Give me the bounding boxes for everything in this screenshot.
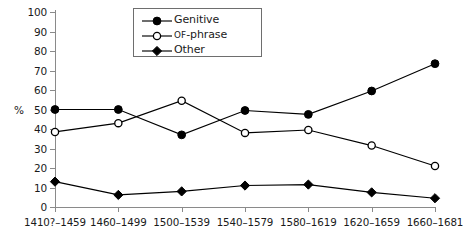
data-point [114,190,123,199]
data-point [240,181,249,190]
data-point [51,128,58,135]
legend-label-smallcaps: OF [174,30,186,40]
data-point [178,131,186,139]
legend-item: Other [140,42,261,57]
data-point [304,180,313,189]
data-point [304,110,312,118]
data-point [431,60,439,68]
series-genitive [51,60,439,139]
data-point [178,97,185,104]
chart-legend: GenitiveOF-phraseOther [133,8,262,57]
data-point [51,106,59,114]
data-point [305,126,312,133]
legend-item: OF-phrase [140,27,261,42]
legend-item: Genitive [140,12,261,27]
data-point [177,187,186,196]
data-point [431,162,438,169]
legend-marker-filled-diamond-icon [140,43,174,57]
series-other [50,177,439,203]
legend-marker-open-circle-icon [140,28,174,42]
legend-label: Genitive [174,13,219,26]
data-point [241,129,248,136]
legend-label: Other [174,43,205,56]
data-point [368,142,375,149]
data-point [50,177,59,186]
data-point [241,107,249,115]
data-point [368,87,376,95]
data-point [115,120,122,127]
data-point [114,106,122,114]
data-point [367,188,376,197]
legend-label: OF-phrase [174,28,227,41]
data-point [430,194,439,203]
legend-marker-filled-circle-icon [140,13,174,27]
